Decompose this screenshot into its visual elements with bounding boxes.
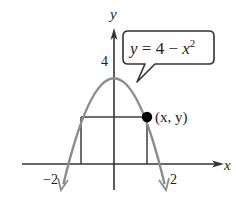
x-tick-2: 2 [170,172,177,187]
y-axis-label: y [108,6,117,22]
equation-label: y = 4 − x2 [128,37,195,58]
x-axis [22,161,224,168]
x-axis-label: x [223,157,231,173]
point-label: (x, y) [155,109,188,126]
y-axis [111,28,118,190]
parabola-diagram: y = 4 − x2 (x, y) y x 4 −2 2 [0,0,236,199]
highlight-point [142,112,152,122]
x-tick-neg2: −2 [43,172,58,187]
y-tick-4: 4 [101,54,108,69]
